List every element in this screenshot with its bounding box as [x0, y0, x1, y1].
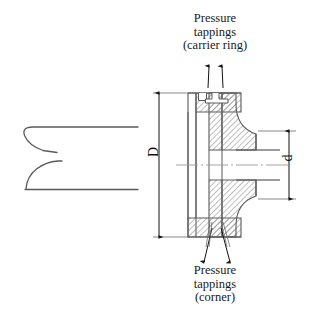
nozzle-plate-upper	[206, 93, 257, 150]
upstream-pipe-profile	[24, 127, 138, 190]
label-pressure-tappings-carrier-ring: Pressure tappings (carrier ring)	[155, 12, 275, 53]
dimension-label-D: D	[146, 144, 162, 160]
figure-canvas: Pressure tappings (carrier ring) Pressur…	[0, 0, 310, 313]
label-pressure-tappings-corner: Pressure tappings (corner)	[155, 264, 275, 305]
nozzle-plate-lower	[209, 180, 256, 237]
dimension-label-d: d	[280, 151, 296, 165]
leader-carrier-ring	[208, 66, 223, 88]
